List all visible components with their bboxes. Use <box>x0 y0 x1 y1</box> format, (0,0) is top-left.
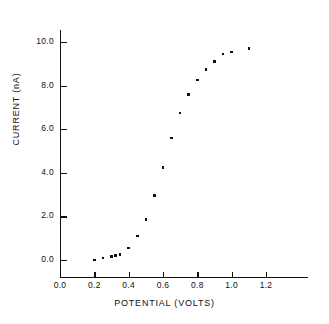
data-point <box>230 51 233 54</box>
y-axis-tick-label: 4.0 <box>20 167 54 177</box>
x-axis-line <box>60 277 308 278</box>
data-point <box>222 53 225 56</box>
x-axis-tick-label: 0.4 <box>114 280 144 290</box>
data-point <box>213 60 216 63</box>
data-point <box>179 112 182 115</box>
y-axis-title: CURRENT (nA) <box>11 49 21 169</box>
x-axis-title: POTENTIAL (VOLTS) <box>0 298 329 308</box>
data-point <box>127 247 130 250</box>
y-axis-tick-label: 0.0 <box>20 254 54 264</box>
data-point <box>145 218 148 221</box>
data-point <box>162 166 165 169</box>
data-point <box>93 259 96 262</box>
data-point <box>205 68 208 71</box>
chart-figure: 0.02.04.06.08.010.0 0.00.20.40.60.81.01.… <box>0 0 329 324</box>
x-axis-tick-label: 1.2 <box>251 280 281 290</box>
data-point <box>110 255 113 258</box>
x-axis-tick-label: 1.0 <box>217 280 247 290</box>
x-axis-tick-label: 0.6 <box>148 280 178 290</box>
data-point <box>136 235 139 238</box>
y-axis-tick-label: 6.0 <box>20 123 54 133</box>
data-point <box>196 79 199 82</box>
data-point <box>114 254 117 257</box>
data-point <box>248 47 251 50</box>
y-axis-tick-label: 8.0 <box>20 80 54 90</box>
data-point <box>119 253 122 256</box>
y-axis-tick-label: 2.0 <box>20 210 54 220</box>
data-point <box>102 257 105 260</box>
data-point <box>170 137 173 140</box>
y-axis-tick-label: 10.0 <box>20 36 54 46</box>
x-axis-tick-label: 0.8 <box>182 280 212 290</box>
x-axis-tick-label: 0.2 <box>79 280 109 290</box>
x-axis-tick-label: 0.0 <box>45 280 75 290</box>
data-point <box>153 194 156 197</box>
data-point <box>187 93 190 96</box>
plot-area <box>60 30 300 277</box>
